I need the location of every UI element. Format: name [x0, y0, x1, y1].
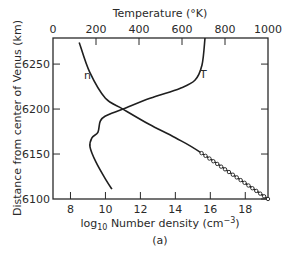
curve-label-t: T — [199, 68, 207, 81]
top-tick-label: 200 — [86, 23, 107, 36]
curve-label-n: n — [84, 69, 91, 82]
density-curve-n — [79, 43, 268, 200]
y-axis-title: Distance from center of Venus (km) — [11, 20, 24, 216]
top-tick-label: 400 — [129, 23, 150, 36]
bottom-tick-label: 18 — [238, 203, 252, 216]
top-tick-label: 1000 — [254, 23, 282, 36]
left-tick-label: 6200 — [22, 103, 50, 116]
left-tick-label: 6150 — [22, 148, 50, 161]
top-axis-title: Temperature (°K) — [112, 7, 207, 20]
top-axis-ticks: 02004006008001000 — [50, 23, 283, 45]
top-tick-label: 600 — [172, 23, 193, 36]
left-tick-label: 6100 — [22, 193, 50, 206]
bottom-tick-label: 10 — [98, 203, 112, 216]
temperature-curve-t — [90, 38, 205, 189]
top-tick-label: 800 — [215, 23, 236, 36]
figure-caption: (a) — [152, 234, 167, 247]
left-axis-ticks: 6100615062006250 — [22, 58, 268, 206]
bottom-tick-label: 14 — [168, 203, 182, 216]
bottom-tick-label: 16 — [203, 203, 217, 216]
bottom-tick-label: 8 — [67, 203, 74, 216]
left-tick-label: 6250 — [22, 58, 50, 71]
bottom-axis-title: log10 Number density (cm−3) — [80, 216, 239, 232]
top-tick-label: 0 — [50, 23, 57, 36]
bottom-axis-ticks: 81012141618 — [67, 192, 252, 216]
venus-atmosphere-chart: Temperature (°K) 02004006008001000 61006… — [0, 0, 292, 254]
bottom-tick-label: 12 — [133, 203, 147, 216]
